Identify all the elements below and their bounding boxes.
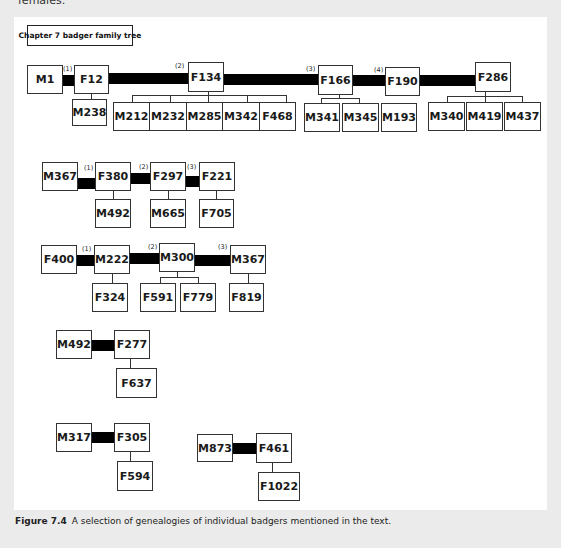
partnership-bar (186, 176, 199, 187)
figure-caption: Figure 7.4A selection of genealogies of … (15, 516, 391, 526)
descent-line (286, 95, 287, 102)
partnership-bar (353, 75, 385, 86)
badger-node: F637 (116, 368, 157, 398)
badger-node: M665 (150, 199, 186, 228)
partnership-bar (224, 74, 318, 85)
descent-line (248, 274, 249, 283)
badger-node: M367 (230, 245, 266, 274)
descent-line (247, 95, 248, 102)
badger-node: F380 (95, 162, 131, 191)
partnership-bar (131, 173, 150, 184)
partnership-number: (2) (175, 62, 184, 70)
badger-node: M1 (27, 65, 63, 94)
badger-node: M342 (222, 102, 260, 131)
badger-node: F779 (180, 283, 216, 312)
partnership-number: (3) (218, 243, 227, 251)
badger-node: F305 (114, 423, 150, 452)
partnership-bar (92, 432, 114, 443)
badger-node: F297 (150, 162, 186, 191)
partnership-number: (2) (139, 163, 148, 171)
diagram-title: Chapter 7 badger family tree (27, 25, 133, 46)
badger-node: F594 (117, 461, 153, 491)
descent-line (130, 452, 131, 461)
figure-label: Figure 7.4 (15, 516, 67, 526)
sibling-bracket (132, 95, 287, 96)
badger-node: M345 (342, 103, 379, 132)
partnership-bar (77, 178, 95, 189)
badger-node: F324 (92, 283, 128, 312)
badger-node: F591 (140, 283, 176, 312)
badger-node: F705 (199, 199, 234, 228)
descent-line (216, 191, 217, 199)
figure-caption-text: A selection of genealogies of individual… (72, 516, 391, 526)
partnership-bar (108, 73, 188, 84)
partnership-number: (1) (84, 164, 93, 172)
badger-node: M285 (186, 102, 223, 131)
sibling-bracket (160, 277, 199, 278)
descent-line (130, 359, 131, 368)
badger-node: F12 (74, 65, 109, 94)
sibling-bracket (321, 98, 360, 99)
badger-node: M193 (381, 103, 417, 132)
badger-node: M873 (197, 434, 233, 462)
partnership-bar (195, 255, 230, 266)
badger-node: M317 (56, 423, 92, 452)
badger-node: M232 (149, 102, 187, 131)
badger-node: F190 (385, 67, 420, 96)
badger-node: M238 (72, 99, 107, 126)
descent-line (112, 274, 113, 283)
badger-node: F286 (475, 62, 511, 92)
badger-node: F1022 (258, 472, 300, 501)
descent-line (170, 95, 171, 102)
partnership-bar (420, 75, 475, 86)
partnership-bar (77, 255, 94, 266)
badger-node: M300 (159, 243, 195, 272)
badger-node: M212 (113, 102, 150, 131)
partnership-bar (233, 443, 256, 454)
partnership-number: (1) (82, 245, 91, 253)
badger-node: F134 (188, 62, 224, 92)
badger-node: M437 (504, 102, 541, 131)
badger-node: F221 (199, 162, 235, 191)
descent-line (113, 191, 114, 199)
badger-node: F166 (318, 65, 353, 95)
badger-node: M341 (304, 103, 340, 132)
descent-line (208, 95, 209, 102)
badger-node: M492 (56, 330, 92, 359)
preceding-text-fragment: females. (18, 0, 65, 7)
descent-line (168, 191, 169, 199)
partnership-number: (3) (187, 163, 196, 171)
badger-node: M222 (94, 245, 130, 274)
badger-node: M340 (428, 102, 465, 131)
descent-line (132, 95, 133, 102)
partnership-number: (2) (148, 243, 157, 251)
partnership-bar (92, 340, 114, 351)
partnership-number: (4) (374, 66, 383, 74)
badger-node: F277 (114, 330, 150, 359)
partnership-bar (130, 253, 159, 264)
descent-line (272, 463, 273, 472)
partnership-bar (63, 75, 74, 86)
badger-node: F468 (259, 102, 296, 131)
badger-node: M367 (42, 162, 78, 191)
badger-node: F461 (256, 433, 292, 463)
badger-node: M419 (466, 102, 503, 131)
badger-node: F819 (229, 283, 264, 312)
partnership-number: (3) (306, 65, 315, 73)
badger-node: M492 (95, 199, 131, 228)
partnership-number: (1) (63, 65, 72, 73)
badger-node: F400 (41, 245, 77, 274)
